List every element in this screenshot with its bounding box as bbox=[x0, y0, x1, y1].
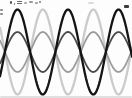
wave-figure bbox=[0, 0, 132, 98]
wave-plot bbox=[0, 0, 132, 98]
